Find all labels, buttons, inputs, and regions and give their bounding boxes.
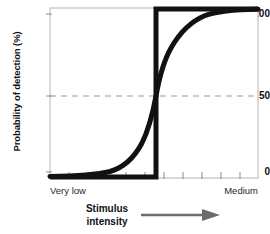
- x-tick-label-medium: Medium: [224, 185, 258, 196]
- right-arrow-icon: [140, 206, 222, 224]
- x-tick-label-very-low: Very low: [50, 185, 86, 196]
- x-axis-title: Stimulus intensity: [76, 203, 138, 228]
- x-axis-title-line2: intensity: [86, 216, 127, 227]
- chart-figure: Probability of detection (%) 100 50 0 Ve…: [0, 0, 270, 234]
- plot-area: [0, 0, 270, 200]
- x-axis-title-line1: Stimulus: [86, 203, 128, 214]
